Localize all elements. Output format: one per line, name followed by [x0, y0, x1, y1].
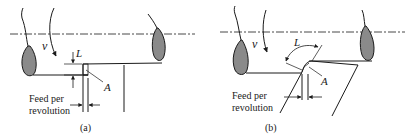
left-section-curl: [22, 8, 28, 46]
velocity-arrow-icon: [50, 8, 56, 56]
velocity-label-a: v: [42, 39, 48, 53]
length-label-b: L: [293, 36, 300, 48]
left-section-icon: [233, 40, 248, 75]
left-section-curl: [234, 6, 241, 40]
feed-label-b-line2: revolution: [232, 102, 273, 113]
right-section-curl: [148, 14, 157, 28]
feed-label-a-line2: revolution: [29, 105, 70, 116]
turning-diagram: v L A Feed per revolution (a) v: [0, 0, 409, 139]
caption-b: (b): [265, 122, 277, 134]
velocity-arrow-icon: [263, 10, 267, 52]
velocity-label-b: v: [252, 37, 258, 51]
length-label-a: L: [75, 47, 82, 59]
point-label-b: A: [320, 75, 328, 87]
right-section-curl: [362, 10, 365, 26]
feed-label-b-line1: Feed per: [232, 90, 267, 101]
right-section-icon: [360, 26, 374, 60]
feed-label-a-line1: Feed per: [29, 93, 64, 104]
caption-a: (a): [80, 122, 91, 134]
left-section-icon: [22, 46, 36, 76]
right-section-icon: [152, 28, 165, 61]
tool-outline: [280, 61, 358, 116]
point-label-a: A: [103, 81, 111, 93]
